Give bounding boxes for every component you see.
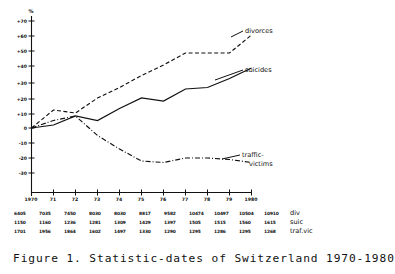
table-cell: 8030 [89,211,114,216]
table-cell: 9582 [164,211,189,216]
table-cell: 1615 [264,220,289,225]
leader-line-traffic [222,155,240,159]
figure-caption: Figure 1. Statistic-dates of Switzerland… [13,252,395,265]
x-tick-label-72: 72 [72,197,78,202]
table-cell: 1505 [189,220,214,225]
x-tick-label-71: 71 [50,197,56,202]
table-cell: 7035 [39,211,64,216]
x-tick-label-75: 75 [138,197,144,202]
table-cell: 8030 [114,211,139,216]
table-cell: 1295 [239,229,264,234]
table-cell: 10504 [239,211,264,216]
table-cell: 7450 [64,211,89,216]
y-tick-label-neg20: -20 [19,156,27,161]
table-cell: 1160 [39,220,64,225]
table-cell: 1295 [189,229,214,234]
y-tick-label-40: +40 [17,64,27,69]
table-row-label: traf.vic [289,227,313,235]
y-tick-label-30: +30 [17,81,27,86]
table-cell: 10497 [214,211,239,216]
table-cell: 10474 [189,211,214,216]
x-tick-label-1980: 1980 [245,197,258,202]
table-cell: 1281 [89,220,114,225]
x-tick-label-76: 76 [160,197,166,202]
y-tick-label-20: +20 [17,97,27,102]
table-cell: 1290 [164,229,189,234]
x-tick-label-74: 74 [116,197,122,202]
x-tick-label-78: 78 [204,197,210,202]
line-chart-svg: % +70 +60 +50 +40 +30 +20 +10 [0,0,375,205]
table-cell: 1330 [139,229,164,234]
table-row: 6405 7035 7450 8030 8030 8817 9582 10474… [14,209,366,218]
x-tick-label-1970: 1970 [25,197,38,202]
y-tick-label-70: +70 [17,19,27,24]
series-label-traffic-victims: traffic- [242,151,264,159]
table-cell: 1429 [139,220,164,225]
x-tick-label-79: 79 [226,197,232,202]
y-tick-label-0: 0 [24,126,27,131]
series-line-traffic-victims [32,116,252,163]
series-label-divorces: divorces [245,27,273,35]
table-cell: 1864 [64,229,89,234]
x-tick-label-77: 77 [182,197,188,202]
table-row: 1150 1160 1236 1281 1309 1429 1397 1505 … [14,218,366,227]
leader-line-divorces [231,31,243,37]
table-cell: 10910 [264,211,289,216]
series-line-suicides [32,68,252,128]
table-cell: 1956 [39,229,64,234]
table-cell: 1515 [214,220,239,225]
table-row-label: suic [289,218,303,226]
y-tick-label-neg30: -30 [19,171,27,176]
y-axis-unit-label: % [28,8,33,14]
y-tick-label-10: +10 [17,112,27,117]
series-line-divorces [32,35,252,128]
table-cell: 1236 [64,220,89,225]
y-tick-label-50: +50 [17,49,27,54]
series-label-suicides: suicides [245,66,272,74]
table-cell: 1309 [114,220,139,225]
table-cell: 1602 [89,229,114,234]
table-cell: 6405 [14,211,39,216]
table-cell: 1397 [164,220,189,225]
table-cell: 1497 [114,229,139,234]
table-cell: 1268 [264,229,289,234]
table-cell: 1701 [14,229,39,234]
table-cell: 8817 [139,211,164,216]
chart-plot-area: % +70 +60 +50 +40 +30 +20 +10 [0,0,375,205]
table-cell: 1560 [239,220,264,225]
y-tick-label-60: +60 [17,34,27,39]
table-cell: 1150 [14,220,39,225]
table-row-label: div [289,209,300,217]
table-cell: 1286 [214,229,239,234]
y-tick-label-neg10: -10 [19,141,27,146]
series-label-traffic-victims-line2: victims [249,160,273,168]
table-row: 1701 1956 1864 1602 1497 1330 1290 1295 … [14,227,366,236]
data-table: 6405 7035 7450 8030 8030 8817 9582 10474… [14,209,366,236]
x-tick-label-73: 73 [94,197,100,202]
